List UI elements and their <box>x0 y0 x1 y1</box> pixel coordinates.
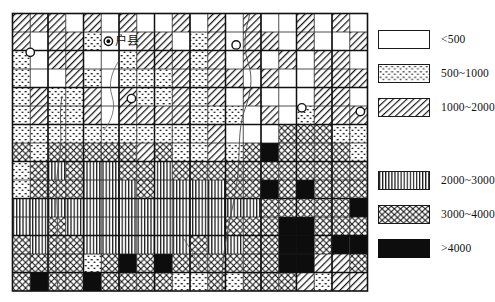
map-cell <box>190 14 208 33</box>
map-cell <box>279 143 297 162</box>
map-cell <box>101 125 119 144</box>
map-cell <box>84 51 102 70</box>
map-cell <box>137 14 155 33</box>
legend-label-2000-3000: 2000~3000 <box>441 175 495 187</box>
map-cell <box>350 143 368 162</box>
map-cell <box>155 273 173 292</box>
map-cell <box>314 236 332 255</box>
map-cell <box>208 88 226 107</box>
map-cell <box>101 51 119 70</box>
map-cell <box>155 254 173 273</box>
legend-label-lt500: <500 <box>441 34 466 46</box>
map-cell <box>243 217 261 236</box>
map-cell <box>350 162 368 181</box>
map-cell <box>314 199 332 218</box>
map-cell <box>84 88 102 107</box>
map-cell <box>155 180 173 199</box>
map-cell <box>13 180 31 199</box>
map-cell <box>279 51 297 70</box>
map-cell <box>119 69 137 88</box>
map-cell <box>101 14 119 33</box>
map-cell <box>208 236 226 255</box>
map-cell <box>332 180 350 199</box>
map-cell <box>172 143 190 162</box>
map-cell <box>190 88 208 107</box>
map-cell <box>279 162 297 181</box>
map-cell <box>190 217 208 236</box>
map-cell <box>119 14 137 33</box>
map-cell <box>172 32 190 51</box>
map-cell <box>66 51 84 70</box>
map-cell <box>172 125 190 144</box>
map-cell <box>48 14 66 33</box>
map-cell <box>243 236 261 255</box>
map-cell <box>208 125 226 144</box>
map-cell <box>243 162 261 181</box>
map-cell <box>350 51 368 70</box>
map-cell <box>48 32 66 51</box>
map-cell <box>261 180 279 199</box>
map-cell <box>350 32 368 51</box>
legend-item-gt4000: >4000 <box>378 239 472 258</box>
map-cell <box>172 162 190 181</box>
map-cell <box>208 273 226 292</box>
map-cell <box>190 125 208 144</box>
map-cell <box>66 32 84 51</box>
map-cell <box>84 236 102 255</box>
map-grid-lines <box>13 14 368 292</box>
map-cell <box>261 217 279 236</box>
map-cell <box>155 88 173 107</box>
map-cell <box>261 162 279 181</box>
map-cell <box>66 199 84 218</box>
map-cell <box>30 32 48 51</box>
map-cell <box>172 273 190 292</box>
map-cell <box>30 254 48 273</box>
map-cell <box>314 254 332 273</box>
map-cell <box>48 254 66 273</box>
map-cell <box>297 236 315 255</box>
map-cell <box>332 32 350 51</box>
map-cell <box>172 14 190 33</box>
legend-swatch-gt4000 <box>378 239 430 258</box>
map-cell <box>190 162 208 181</box>
map-cell <box>172 88 190 107</box>
map-cell <box>13 125 31 144</box>
map-cell <box>243 254 261 273</box>
map-cell <box>119 199 137 218</box>
map-cell <box>208 143 226 162</box>
legend-item-lt500: <500 <box>378 30 466 49</box>
map-cell <box>208 14 226 33</box>
map-cell <box>101 88 119 107</box>
map-cell <box>30 180 48 199</box>
map-cell <box>332 14 350 33</box>
map-cell <box>261 273 279 292</box>
map-cell <box>279 273 297 292</box>
map-cell <box>332 106 350 125</box>
map-cell <box>155 125 173 144</box>
map-cell <box>101 106 119 125</box>
map-cell <box>190 106 208 125</box>
map-cell <box>243 88 261 107</box>
map-cell <box>30 88 48 107</box>
map-cell <box>66 236 84 255</box>
map-cell <box>30 236 48 255</box>
map-cell <box>48 106 66 125</box>
map-cell <box>226 88 244 107</box>
map-cell <box>137 106 155 125</box>
map-cell <box>332 69 350 88</box>
map-cell <box>243 180 261 199</box>
filled-circle-marker <box>104 37 112 45</box>
map-cell <box>350 69 368 88</box>
map-cell <box>84 32 102 51</box>
map-cell <box>243 14 261 33</box>
map-cell <box>84 273 102 292</box>
map-cell <box>190 199 208 218</box>
map-cell <box>332 51 350 70</box>
open-circle-marker <box>232 41 240 49</box>
grid-map-svg: 户县 <box>0 0 380 302</box>
map-cell <box>261 236 279 255</box>
map-cell <box>172 254 190 273</box>
map-cell <box>261 254 279 273</box>
map-cell <box>13 32 31 51</box>
